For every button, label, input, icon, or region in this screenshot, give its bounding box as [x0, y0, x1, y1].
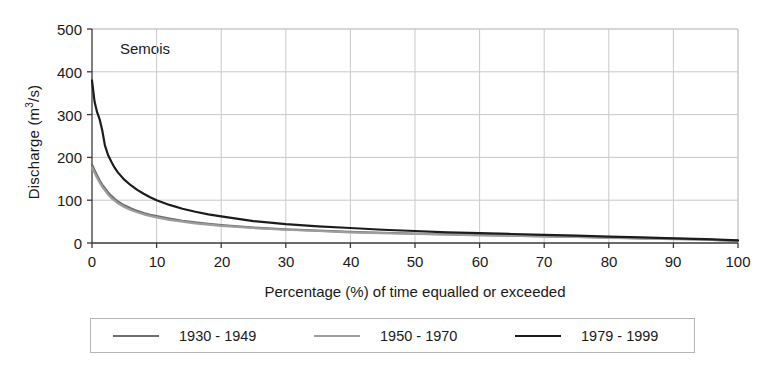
y-axis-title-exponent: 3 — [24, 102, 35, 108]
y-tick-label-400: 400 — [36, 65, 82, 80]
discharge-duration-chart: Discharge (m3/s) 500 400 300 200 100 0 0… — [0, 0, 774, 374]
x-axis-title: Percentage (%) of time equalled or excee… — [92, 283, 738, 300]
legend-label-1930-1949: 1930 - 1949 — [179, 328, 256, 344]
y-tick-label-500: 500 — [36, 22, 82, 37]
legend-label-1950-1970: 1950 - 1970 — [380, 328, 457, 344]
x-tick-label-20: 20 — [202, 254, 242, 269]
x-tick-label-100: 100 — [718, 254, 758, 269]
legend-entry-1930-1949[interactable]: 1930 - 1949 — [91, 328, 292, 344]
x-tick-label-60: 60 — [460, 254, 500, 269]
legend-label-1979-1999: 1979 - 1999 — [581, 328, 658, 344]
y-tick-label-100: 100 — [36, 193, 82, 208]
x-tick-label-90: 90 — [653, 254, 693, 269]
legend-swatch-1979-1999 — [515, 335, 561, 337]
x-tick-label-50: 50 — [395, 254, 435, 269]
x-tick-label-40: 40 — [331, 254, 371, 269]
plot-annotation-semois: Semois — [120, 40, 170, 57]
legend-swatch-1930-1949 — [113, 335, 159, 337]
x-tick-label-0: 0 — [72, 254, 112, 269]
x-tick-label-70: 70 — [524, 254, 564, 269]
y-axis-title-tail: /s) — [25, 85, 42, 102]
y-tick-label-300: 300 — [36, 108, 82, 123]
legend: 1930 - 1949 1950 - 1970 1979 - 1999 — [90, 318, 695, 353]
y-axis-title: Discharge (m3/s) — [24, 17, 42, 267]
x-tick-label-80: 80 — [589, 254, 629, 269]
x-tick-label-30: 30 — [266, 254, 306, 269]
legend-entry-1979-1999[interactable]: 1979 - 1999 — [493, 328, 694, 344]
legend-swatch-1950-1970 — [314, 335, 360, 337]
legend-entry-1950-1970[interactable]: 1950 - 1970 — [292, 328, 493, 344]
y-tick-label-0: 0 — [36, 236, 82, 251]
y-tick-label-200: 200 — [36, 150, 82, 165]
x-tick-label-10: 10 — [137, 254, 177, 269]
